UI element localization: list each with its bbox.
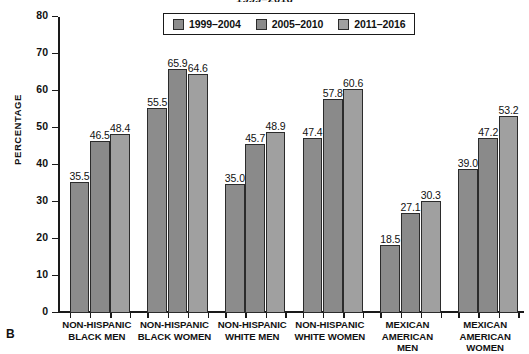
y-axis-tick: 60	[52, 90, 58, 91]
y-axis-tick: 50	[52, 127, 58, 128]
bar-value-label: 57.8	[323, 87, 343, 99]
y-axis-tick: 20	[52, 238, 58, 239]
x-axis-tick	[343, 313, 344, 318]
x-axis-tick	[478, 313, 479, 318]
bar: 65.9	[168, 69, 188, 313]
bar-value-label: 18.5	[380, 233, 400, 245]
x-axis-tick	[518, 313, 519, 318]
y-axis-tick: 30	[52, 201, 58, 202]
x-axis-tick	[380, 313, 381, 318]
bar: 53.2	[499, 116, 519, 313]
y-axis-tick-label: 10	[36, 268, 48, 280]
x-axis-tick	[168, 313, 169, 318]
legend-item: 2005–2010	[256, 18, 324, 30]
bar-value-label: 64.6	[188, 62, 208, 74]
x-axis-tick	[499, 313, 500, 318]
category-label-line: BLACK WOMEN	[132, 331, 218, 343]
y-axis-tick-label: 40	[36, 157, 48, 169]
x-axis-tick	[401, 313, 402, 318]
bar-value-label: 53.2	[498, 104, 518, 116]
category-label-line: WHITE MEN	[209, 331, 295, 343]
chart-legend: 1999–20042005–20102011–2016	[163, 13, 415, 35]
panel-letter: B	[6, 327, 15, 341]
y-axis-tick-label: 30	[36, 194, 48, 206]
y-axis-tick-label: 50	[36, 120, 48, 132]
bar-value-label: 60.6	[343, 77, 363, 89]
bar: 48.9	[266, 132, 286, 313]
x-axis-category-label: NON-HISPANICWHITE MEN	[209, 319, 295, 342]
bar-value-label: 47.2	[478, 126, 498, 138]
category-label-line: AMERICAN	[442, 331, 528, 343]
bar: 48.4	[110, 134, 130, 313]
legend-label: 2011–2016	[354, 18, 405, 30]
x-axis-tick	[188, 313, 189, 318]
y-axis-tick-label: 70	[36, 46, 48, 58]
category-label-line: MEXICAN	[365, 319, 451, 331]
bar: 47.4	[303, 138, 323, 313]
y-axis-tick-label: 60	[36, 83, 48, 95]
category-label-line: NON-HISPANIC	[54, 319, 140, 331]
bar-value-label: 35.5	[70, 170, 90, 182]
bar-value-label: 30.3	[421, 189, 441, 201]
x-axis-tick	[208, 313, 209, 318]
x-axis-category-label: NON-HISPANICBLACK MEN	[54, 319, 140, 342]
bar: 46.5	[90, 141, 110, 313]
x-axis-tick	[225, 313, 226, 318]
bar: 57.8	[323, 99, 343, 313]
legend-label: 2005–2010	[272, 18, 324, 30]
y-axis-tick: 0	[52, 312, 58, 313]
x-axis-tick	[147, 313, 148, 318]
category-label-line: NON-HISPANIC	[132, 319, 218, 331]
legend-swatch-icon	[338, 19, 349, 30]
category-label-line: WOMEN	[442, 342, 528, 354]
bar: 55.5	[147, 108, 167, 313]
bar: 27.1	[401, 213, 421, 313]
figure-panel-b: 1999–2016 B PERCENTAGE 01020304050607080…	[0, 0, 529, 354]
y-axis-tick-label: 20	[36, 231, 48, 243]
y-axis-tick: 40	[52, 164, 58, 165]
x-axis-tick	[266, 313, 267, 318]
category-label-line: AMERICAN	[365, 331, 451, 343]
bar-value-label: 48.9	[265, 120, 285, 132]
bar-value-label: 27.1	[400, 201, 420, 213]
category-label-line: MEXICAN	[442, 319, 528, 331]
x-axis-tick	[458, 313, 459, 318]
bar-value-label: 35.0	[225, 172, 245, 184]
bar: 35.5	[70, 182, 90, 313]
x-axis-tick	[421, 313, 422, 318]
category-label-line: MEN	[365, 342, 451, 354]
y-axis-tick-label: 0	[42, 305, 48, 317]
bar: 35.0	[225, 184, 245, 314]
x-axis-tick	[363, 313, 364, 318]
bar-value-label: 46.5	[90, 129, 110, 141]
bar: 60.6	[343, 89, 363, 313]
figure-suptitle: 1999–2016	[0, 0, 529, 2]
bar: 39.0	[458, 169, 478, 313]
y-axis-title: PERCENTAGE	[12, 80, 23, 180]
x-axis-tick	[130, 313, 131, 318]
bar-value-label: 65.9	[167, 57, 187, 69]
y-axis-tick-label: 80	[36, 9, 48, 21]
y-axis-tick: 10	[52, 275, 58, 276]
legend-label: 1999–2004	[189, 18, 241, 30]
y-axis-tick: 80	[52, 16, 58, 17]
plot-area: 01020304050607080 35.546.548.455.565.964…	[58, 17, 524, 313]
x-axis-tick	[110, 313, 111, 318]
x-axis-category-label: NON-HISPANICBLACK WOMEN	[132, 319, 218, 342]
y-axis-tick: 70	[52, 53, 58, 54]
bar-value-label: 45.7	[245, 132, 265, 144]
legend-swatch-icon	[173, 19, 184, 30]
x-axis-tick	[323, 313, 324, 318]
bar: 47.2	[478, 138, 498, 313]
x-axis-category-label: NON-HISPANICWHITE WOMEN	[287, 319, 373, 342]
x-axis-category-label: MEXICANAMERICANWOMEN	[442, 319, 528, 354]
bar: 45.7	[245, 144, 265, 313]
x-axis-tick	[441, 313, 442, 318]
bar-value-label: 39.0	[458, 157, 478, 169]
x-axis-tick	[303, 313, 304, 318]
x-axis-tick	[70, 313, 71, 318]
category-label-line: NON-HISPANIC	[287, 319, 373, 331]
legend-swatch-icon	[256, 19, 267, 30]
legend-item: 2011–2016	[338, 18, 405, 30]
y-axis-line	[58, 17, 60, 313]
